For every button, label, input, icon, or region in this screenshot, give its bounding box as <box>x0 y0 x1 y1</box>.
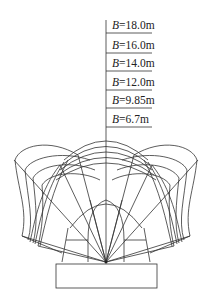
span-label-2: B=16.0m <box>112 40 155 52</box>
span-label-3: B=14.0m <box>112 58 155 70</box>
base-footing <box>56 264 157 288</box>
span-label-1: B=18.0m <box>112 20 155 32</box>
span-label-4: B=12.0m <box>112 77 155 89</box>
span-label-6: B=6.7m <box>112 114 149 126</box>
diagram-canvas <box>0 0 215 306</box>
span-label-5: B=9.85m <box>112 95 155 107</box>
